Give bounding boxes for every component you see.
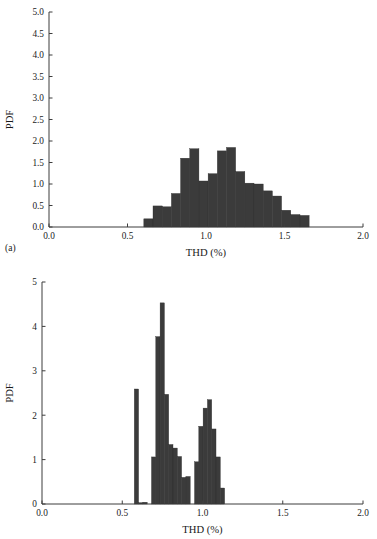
x-tick-label: 0.0: [36, 508, 48, 518]
x-tick-label: 1.5: [279, 231, 291, 241]
histogram-bar: [151, 457, 155, 504]
y-tick-label: 4: [32, 322, 37, 332]
y-axis-title: PDF: [4, 383, 15, 403]
y-tick-label: 1.5: [32, 158, 44, 168]
histogram-bar: [156, 337, 160, 504]
histogram-bar: [291, 215, 300, 227]
y-tick-label: 0: [32, 499, 37, 509]
x-tick-label: 0.5: [116, 508, 128, 518]
x-tick-label: 2.0: [357, 508, 369, 518]
histogram-bar: [217, 151, 226, 227]
x-axis: 0.00.51.01.52.0: [36, 501, 369, 519]
chart-b: 0.00.51.01.52.0012345THD (%)PDF: [0, 270, 377, 539]
histogram-bar: [220, 488, 224, 504]
histogram-bar: [212, 429, 216, 504]
y-tick-label: 3.0: [32, 93, 44, 103]
panel-a-caption: (a): [5, 243, 16, 253]
histogram-bar: [153, 206, 162, 227]
histogram-bar: [199, 426, 203, 504]
histogram-bar: [181, 158, 190, 227]
y-tick-label: 1: [32, 455, 37, 465]
histogram-bar: [236, 172, 245, 227]
y-tick-label: 4.0: [32, 50, 44, 60]
histogram-bar: [208, 174, 217, 227]
x-axis-title: THD (%): [186, 247, 227, 259]
y-tick-label: 0.0: [32, 222, 44, 232]
histogram-bar: [195, 462, 199, 504]
y-axis: 012345: [32, 277, 45, 509]
histogram-bar: [254, 184, 263, 227]
histogram-bar: [190, 149, 199, 227]
histogram-bar: [160, 303, 164, 504]
x-axis: 0.00.51.01.52.0: [43, 224, 369, 242]
histogram-bar: [216, 457, 220, 504]
histogram-bar: [144, 219, 153, 227]
histogram-bar: [203, 408, 207, 504]
x-tick-label: 2.0: [357, 231, 369, 241]
x-axis-title: THD (%): [182, 524, 223, 536]
histogram-bar: [182, 477, 186, 504]
histogram-bar: [177, 456, 181, 504]
y-tick-label: 3.5: [32, 72, 44, 82]
x-tick-label: 0.0: [43, 231, 55, 241]
histogram-bar: [226, 147, 235, 227]
y-tick-label: 0.5: [32, 201, 44, 211]
bars-group: [134, 303, 224, 504]
y-tick-label: 2.5: [32, 115, 44, 125]
y-tick-label: 5: [32, 277, 37, 287]
histogram-bar: [171, 193, 180, 227]
panel-b: 0.00.51.01.52.0012345THD (%)PDF (b): [0, 270, 377, 539]
histogram-bar: [300, 215, 309, 227]
histogram-bar: [272, 196, 281, 227]
panel-a: 0.00.51.01.52.00.00.51.01.52.02.53.03.54…: [0, 0, 377, 270]
y-tick-label: 3: [32, 366, 37, 376]
x-tick-label: 1.0: [197, 508, 209, 518]
histogram-bar: [169, 445, 173, 505]
x-tick-label: 1.5: [277, 508, 289, 518]
histogram-bar: [263, 191, 272, 227]
histogram-bar: [186, 476, 190, 504]
x-tick-label: 1.0: [200, 231, 212, 241]
y-axis-title: PDF: [4, 110, 15, 130]
figure-thd-pdf: 0.00.51.01.52.00.00.51.01.52.02.53.03.54…: [0, 0, 377, 539]
y-tick-label: 4.5: [32, 29, 44, 39]
histogram-bar: [164, 394, 168, 504]
histogram-bar: [134, 389, 138, 504]
bars-group: [144, 147, 309, 227]
histogram-bar: [173, 448, 177, 504]
chart-a: 0.00.51.01.52.00.00.51.01.52.02.53.03.54…: [0, 0, 377, 270]
y-tick-label: 2: [32, 411, 37, 421]
x-tick-label: 0.5: [122, 231, 134, 241]
y-tick-label: 1.0: [32, 179, 44, 189]
y-tick-label: 2.0: [32, 136, 44, 146]
histogram-bar: [207, 400, 211, 504]
histogram-bar: [162, 207, 171, 227]
histogram-bar: [282, 210, 291, 227]
y-tick-label: 5.0: [32, 7, 44, 17]
histogram-bar: [245, 183, 254, 227]
histogram-bar: [199, 181, 208, 227]
